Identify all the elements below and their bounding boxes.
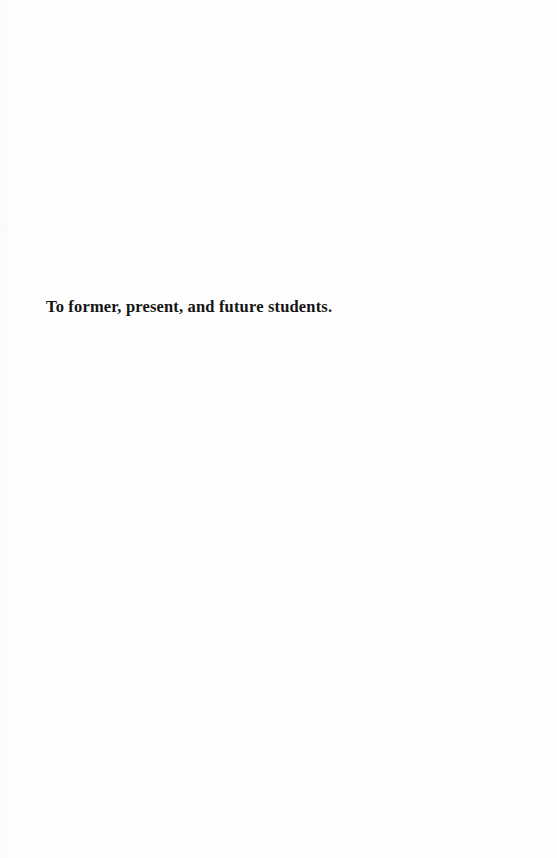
dedication-text: To former, present, and future students. (46, 298, 332, 316)
document-page: To former, present, and future students. (0, 0, 557, 858)
scan-gutter-shading (0, 0, 16, 858)
scan-noise-texture (0, 0, 557, 858)
